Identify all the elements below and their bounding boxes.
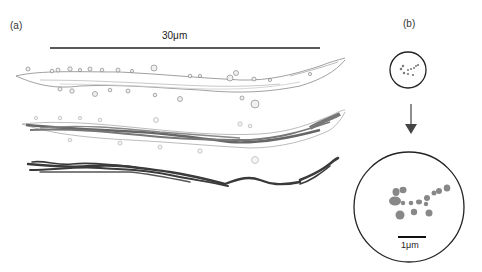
- figure-canvas: [0, 0, 482, 272]
- mitochondria-cross-section-dots: [389, 184, 450, 219]
- scale-bar-1um-label: 1μm: [401, 240, 419, 250]
- down-arrow-icon: [405, 124, 417, 134]
- mitochondria-only-rendering: [28, 158, 338, 186]
- dendrite-surface-rendering: [16, 58, 345, 92]
- scale-bar-30um-label: 30μm: [162, 30, 187, 41]
- overview-dots: [400, 64, 419, 76]
- panel-b-label: (b): [403, 18, 415, 29]
- panel-a-label: (a): [10, 20, 22, 31]
- dendrite-with-mitochondria-rendering: [22, 110, 345, 148]
